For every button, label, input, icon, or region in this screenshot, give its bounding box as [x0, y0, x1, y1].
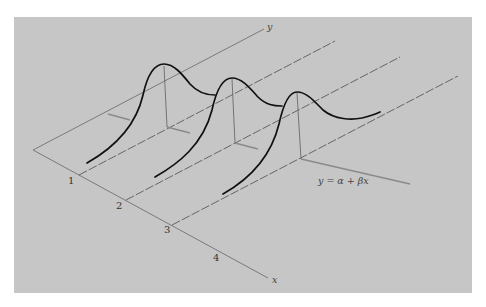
x-axis-label: x: [272, 274, 278, 285]
x-tick-2: 2: [116, 200, 122, 211]
figure-panel: [14, 17, 472, 293]
y-axis-label: y: [266, 21, 273, 32]
regression-line-label: y = α + βx: [317, 175, 369, 186]
x-tick-4: 4: [213, 252, 219, 263]
x-tick-1: 1: [68, 175, 74, 186]
regression-diagram: y x 1 2 3 4 y = α + βx: [0, 0, 486, 307]
x-tick-3: 3: [164, 224, 170, 235]
